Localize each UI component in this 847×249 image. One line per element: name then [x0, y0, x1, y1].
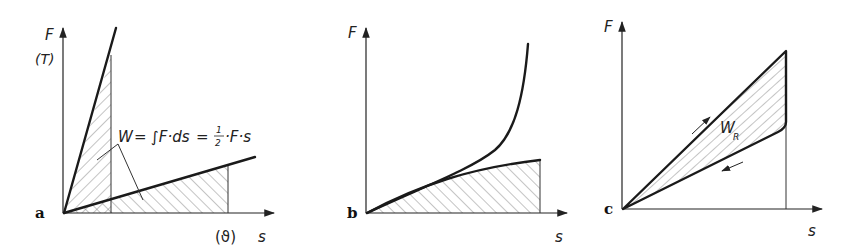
- panel-a: F (T) a (ϑ) s W = ∫F·ds = 1 2 ·F·s: [35, 26, 274, 246]
- formula-eq2: =: [196, 128, 209, 146]
- x-axis-label: s: [258, 228, 266, 246]
- x-axis-label-alt: (ϑ): [215, 228, 236, 246]
- x-axis-label: s: [808, 222, 816, 240]
- work-formula: W = ∫F·ds = 1 2 ·F·s: [118, 125, 251, 148]
- spring-characteristics-figure: F (T) a (ϑ) s W = ∫F·ds = 1 2 ·F·s F b s: [0, 0, 847, 249]
- formula-lhs: W: [118, 128, 134, 146]
- panel-letter: b: [347, 204, 358, 222]
- y-axis-label: F: [604, 18, 613, 36]
- formula-integral: ∫F·ds: [151, 128, 190, 146]
- panel-c: W R F c s: [604, 18, 822, 240]
- panel-letter: c: [604, 200, 613, 218]
- x-axis-label: s: [555, 228, 563, 246]
- panel-letter: a: [35, 204, 45, 222]
- formula-eq1: =: [134, 128, 147, 146]
- y-axis-label: F: [348, 24, 357, 42]
- y-axis-label-alt: (T): [35, 51, 54, 67]
- y-axis-label: F: [45, 26, 54, 44]
- panel-b: F b s: [347, 24, 567, 246]
- formula-frac-num: 1: [216, 125, 222, 135]
- formula-rhs: ·F·s: [225, 128, 251, 146]
- unloading-direction-arrow-icon: [722, 162, 743, 171]
- formula-frac-den: 2: [215, 138, 221, 148]
- friction-work-subscript: R: [733, 132, 739, 142]
